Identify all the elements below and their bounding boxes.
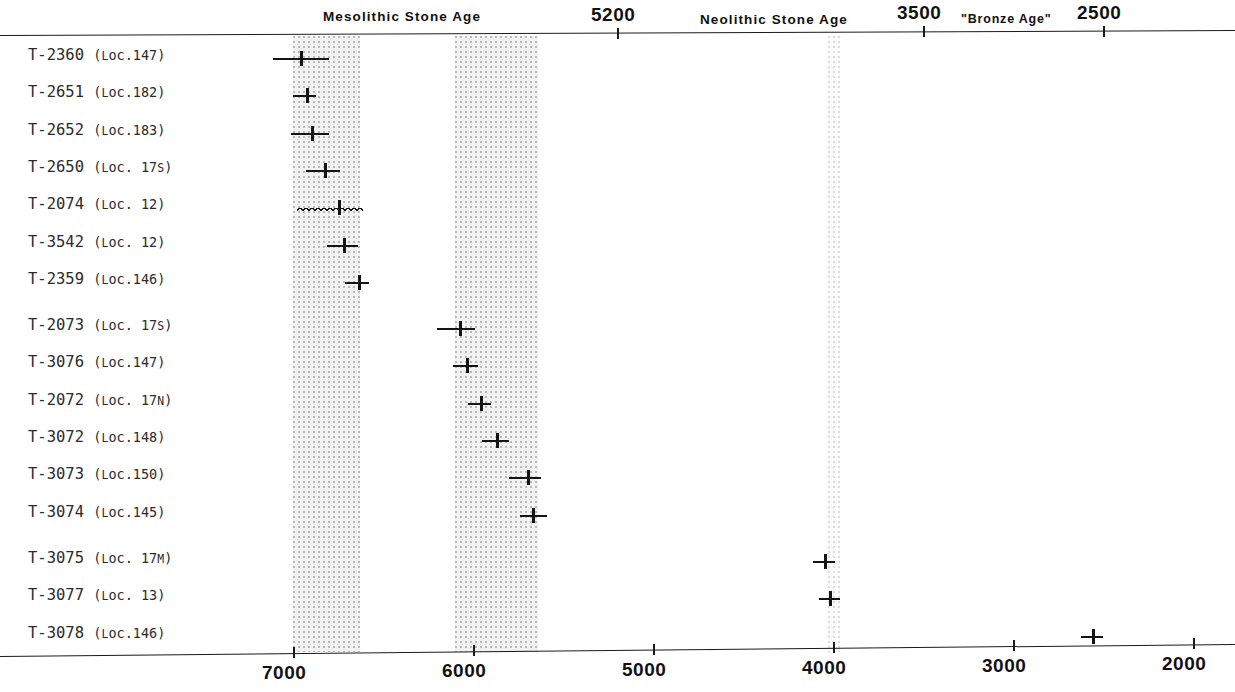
sample-label-T-3542: T-3542 (Loc. 12) [28, 233, 165, 251]
bottom-axis-line [0, 644, 1235, 657]
center-tick-T-3072 [496, 433, 499, 448]
center-tick-T-3077 [829, 591, 832, 606]
era-label-0: Mesolithic Stone Age [323, 9, 481, 24]
center-tick-T-3074 [532, 508, 535, 523]
sample-label-T-2359: T-2359 (Loc.146) [28, 270, 165, 288]
sample-label-T-3078: T-3078 (Loc.146) [28, 624, 165, 642]
top-tick-label-3500: 3500 [897, 2, 941, 24]
band-mesolithic-late [455, 36, 538, 652]
center-tick-T-2650 [324, 163, 327, 178]
era-label-1: Neolithic Stone Age [700, 12, 848, 27]
top-tick-2500 [1103, 26, 1105, 37]
center-tick-T-2360 [300, 51, 303, 66]
sample-label-T-2651: T-2651 (Loc.182) [28, 83, 165, 101]
sample-label-T-2650: T-2650 (Loc. 17S) [28, 158, 172, 176]
sample-label-T-3075: T-3075 (Loc. 17M) [28, 549, 172, 567]
bottom-tick-label-4000: 4000 [802, 657, 846, 679]
error-bar-T-3073 [509, 477, 541, 479]
sample-label-T-3072: T-3072 (Loc.148) [28, 428, 165, 446]
top-tick-label-2500: 2500 [1077, 2, 1121, 24]
sample-label-T-2074: T-2074 (Loc. 12) [28, 195, 165, 213]
bottom-tick-label-5000: 5000 [622, 659, 666, 681]
center-tick-T-2074 [338, 200, 341, 215]
bottom-tick-2000 [1193, 638, 1195, 649]
radiocarbon-chart: a (y = ... , calibrated) 520035002500Mes… [0, 0, 1235, 692]
center-tick-T-3073 [527, 470, 530, 485]
bottom-tick-7000 [293, 647, 295, 658]
bottom-tick-label-7000: 7000 [262, 662, 306, 684]
band-mesolithic-early [293, 36, 360, 652]
sample-label-T-3073: T-3073 (Loc.150) [28, 465, 165, 483]
center-tick-T-3078 [1092, 629, 1095, 644]
sample-label-T-2652: T-2652 (Loc.183) [28, 121, 165, 139]
center-tick-T-3075 [824, 554, 827, 569]
sample-label-T-3074: T-3074 (Loc.145) [28, 503, 165, 521]
era-label-2: "Bronze Age" [961, 12, 1051, 26]
bottom-tick-label-3000: 3000 [982, 655, 1026, 677]
center-tick-T-2652 [311, 126, 314, 141]
bottom-tick-4000 [833, 642, 835, 653]
center-tick-T-2651 [306, 88, 309, 103]
bottom-tick-label-6000: 6000 [442, 660, 486, 682]
center-tick-T-2072 [480, 396, 483, 411]
error-bar-T-2074 [297, 207, 364, 212]
band-neolithic-4000 [828, 36, 841, 652]
bottom-tick-3000 [1013, 640, 1015, 651]
sample-label-T-2072: T-2072 (Loc. 17N) [28, 391, 172, 409]
sample-label-T-3076: T-3076 (Loc.147) [28, 353, 165, 371]
top-tick-3500 [923, 26, 925, 37]
center-tick-T-3076 [466, 358, 469, 373]
sample-label-T-3077: T-3077 (Loc. 13) [28, 586, 165, 604]
center-tick-T-2073 [459, 321, 462, 336]
bottom-tick-label-2000: 2000 [1162, 653, 1206, 675]
bottom-tick-6000 [473, 645, 475, 656]
error-bar-T-2073 [437, 328, 475, 330]
top-tick-5200 [617, 28, 619, 39]
top-tick-label-5200: 5200 [591, 4, 635, 26]
sample-label-T-2073: T-2073 (Loc. 17S) [28, 316, 172, 334]
center-tick-T-2359 [358, 275, 361, 290]
bottom-tick-5000 [653, 644, 655, 655]
center-tick-T-3542 [343, 238, 346, 253]
sample-label-T-2360: T-2360 (Loc.147) [28, 46, 165, 64]
